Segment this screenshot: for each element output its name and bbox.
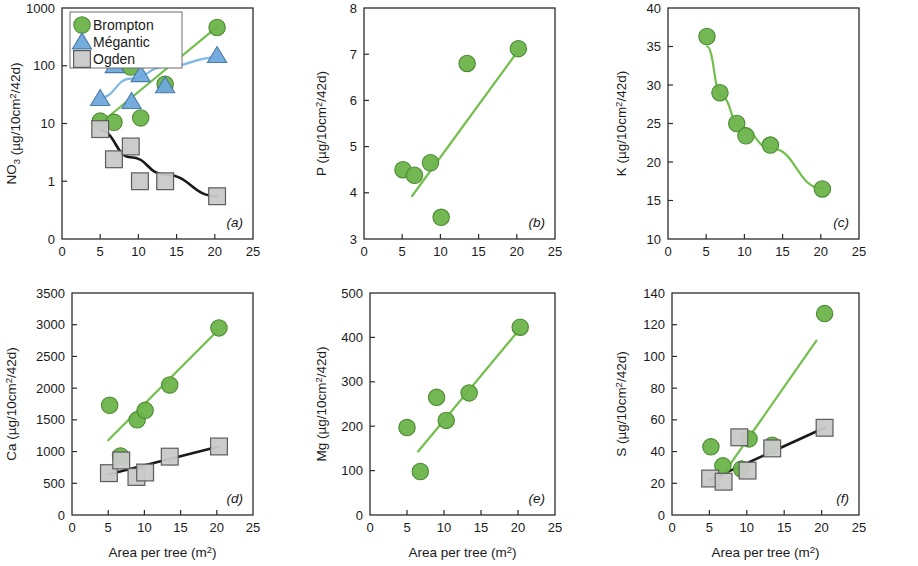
x-tick-label: 0 [668, 520, 675, 535]
data-point-square-marker [137, 464, 154, 481]
y-tick-label: 40 [651, 444, 665, 459]
y-axis-title: NO3 (µg/10cm2/42d) [4, 63, 23, 185]
data-point-square-marker [211, 438, 228, 455]
y-tick-label: 20 [651, 476, 665, 491]
y-tick-label: 140 [643, 286, 665, 301]
panel-f: 0510152025020406080100120140S (µg/10cm2/… [610, 283, 918, 566]
x-tick-label: 5 [706, 520, 713, 535]
x-tick-label: 10 [737, 244, 751, 259]
panel-tag: (c) [833, 215, 849, 230]
series-ogden [702, 419, 833, 490]
data-point-circle-marker [433, 209, 449, 225]
x-tick-label: 15 [775, 244, 789, 259]
x-axis-title: Area per tree (m2) [711, 544, 819, 561]
data-point-triangle-marker [91, 89, 110, 105]
panel-plot-a: 051015202501101001000NO3 (µg/10cm2/42d)(… [0, 0, 310, 283]
x-tick-label: 15 [169, 244, 183, 259]
y-tick-label: 8 [350, 1, 357, 16]
data-point-circle-marker [816, 305, 832, 321]
panel-plot-e: 05101520250100200300400500Mg (µg/10cm2/4… [310, 283, 610, 566]
data-point-square-marker [764, 440, 781, 457]
data-point-circle-marker [137, 402, 153, 418]
panel-plot-d: 05101520250500100015002000250030003500Ca… [0, 283, 310, 566]
data-point-circle-marker [132, 110, 148, 126]
panel-tag: (f) [836, 491, 849, 506]
x-tick-label: 20 [208, 244, 222, 259]
y-tick-label: 3 [350, 232, 357, 247]
fit-line-brompton [707, 47, 822, 189]
x-tick-label: 15 [474, 520, 488, 535]
plot-frame [668, 8, 859, 239]
panel-tag: (d) [227, 491, 244, 506]
data-point-circle-marker [461, 385, 477, 401]
y-tick-label: 4 [350, 185, 357, 200]
y-axis-title: Ca (µg/10cm2/42d) [3, 347, 20, 461]
x-tick-label: 25 [246, 244, 260, 259]
data-point-square-marker [157, 173, 174, 190]
y-tick-label: 2000 [36, 381, 65, 396]
y-tick-label: 20 [647, 155, 661, 170]
y-tick-label: 0 [58, 508, 65, 523]
x-tick-label: 15 [173, 520, 187, 535]
y-axis-title: K (µg/10cm2/42d) [613, 71, 630, 176]
data-point-square-marker [122, 138, 139, 155]
series-brompton [395, 40, 527, 225]
y-tick-label: 500 [43, 476, 65, 491]
x-tick-label: 0 [366, 520, 373, 535]
data-point-circle-marker [762, 137, 778, 153]
x-axis-title: Area per tree (m2) [108, 544, 216, 561]
x-tick-label: 5 [97, 244, 104, 259]
panel-tag: (b) [529, 215, 546, 230]
data-point-circle-marker [814, 181, 830, 197]
data-point-triangle-marker [122, 92, 141, 108]
y-tick-label: 0 [658, 508, 665, 523]
y-tick-label: 6 [350, 93, 357, 108]
x-tick-label: 25 [852, 520, 866, 535]
series-ogden [101, 438, 228, 485]
y-tick-label: 40 [647, 1, 661, 16]
data-point-circle-marker [406, 167, 422, 183]
data-point-circle-marker [412, 463, 428, 479]
y-tick-label: 25 [647, 116, 661, 131]
y-tick-label: 35 [647, 39, 661, 54]
y-tick-label: 15 [647, 193, 661, 208]
x-tick-label: 20 [511, 520, 525, 535]
x-tick-label: 15 [777, 520, 791, 535]
data-point-circle-marker [162, 377, 178, 393]
y-tick-label: 2500 [36, 349, 65, 364]
data-point-circle-marker [699, 28, 715, 44]
data-point-square-marker [113, 452, 130, 469]
data-point-square-marker [92, 121, 109, 138]
x-tick-label: 25 [548, 520, 562, 535]
data-point-square-marker [209, 188, 226, 205]
legend-label-ogden: Ogden [93, 51, 135, 67]
x-tick-label: 10 [740, 520, 754, 535]
x-tick-label: 20 [210, 520, 224, 535]
data-point-circle-marker [209, 19, 225, 35]
x-tick-label: 5 [399, 244, 406, 259]
y-tick-label: 100 [341, 463, 363, 478]
data-point-circle-marker [459, 55, 475, 71]
x-tick-label: 5 [403, 520, 410, 535]
series-brompton [699, 28, 831, 197]
data-point-square-marker [731, 429, 748, 446]
x-tick-label: 20 [814, 244, 828, 259]
y-tick-label: 1000 [26, 1, 55, 16]
fit-line-brompton [412, 51, 518, 197]
y-tick-label: 80 [651, 381, 665, 396]
y-axis-title: S (µg/10cm2/42d) [613, 351, 630, 456]
x-tick-label: 0 [58, 244, 65, 259]
data-point-circle-marker [738, 128, 754, 144]
legend-label-mégantic: Mégantic [93, 34, 150, 50]
panel-a: 051015202501101001000NO3 (µg/10cm2/42d)(… [0, 0, 310, 283]
x-tick-label: 10 [131, 244, 145, 259]
data-point-circle-marker [428, 389, 444, 405]
y-tick-label: 1000 [36, 444, 65, 459]
y-tick-label: 10 [41, 116, 55, 131]
panel-d: 05101520250500100015002000250030003500Ca… [0, 283, 310, 566]
y-tick-label: 0 [356, 508, 363, 523]
x-tick-label: 10 [137, 520, 151, 535]
y-tick-label: 400 [341, 330, 363, 345]
y-tick-label: 100 [643, 349, 665, 364]
plot-frame [672, 293, 859, 515]
